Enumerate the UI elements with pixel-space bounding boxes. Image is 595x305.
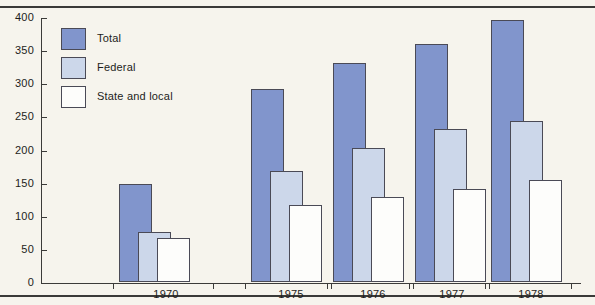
y-tick: 50 <box>41 250 47 251</box>
y-tick-label: 50 <box>21 243 34 255</box>
y-tick-mark <box>41 250 47 251</box>
top-divider-rule <box>0 6 595 8</box>
y-tick-label: 300 <box>15 77 34 89</box>
legend-label: Federal <box>97 61 136 73</box>
x-axis-label-1976: 1976 <box>343 288 403 300</box>
x-tick-mark <box>413 283 414 289</box>
legend-label: State and local <box>97 90 173 102</box>
y-tick-mark <box>41 51 47 52</box>
x-tick-mark <box>571 283 572 289</box>
y-tick-label: 100 <box>15 210 34 222</box>
legend-item: Total <box>61 28 231 57</box>
x-tick-mark <box>331 283 332 289</box>
y-tick-label: 150 <box>15 177 34 189</box>
legend-swatch <box>61 57 86 79</box>
x-axis-label-1970: 1970 <box>136 288 196 300</box>
bar-state-and-local <box>157 238 190 282</box>
legend-item: Federal <box>61 57 231 86</box>
y-tick-mark <box>41 84 47 85</box>
x-tick-mark <box>245 283 246 289</box>
x-tick-mark <box>327 283 328 289</box>
y-tick-mark <box>41 117 47 118</box>
bar-group <box>333 18 413 283</box>
chart-figure: 050100150200250300350400 197019751976197… <box>0 0 595 305</box>
y-tick: 200 <box>41 151 47 152</box>
y-tick-label: 400 <box>15 11 34 23</box>
y-tick-label: 250 <box>15 110 34 122</box>
y-tick-mark <box>41 283 47 284</box>
bar-state-and-local <box>371 197 404 282</box>
y-tick: 100 <box>41 217 47 218</box>
y-tick-mark <box>41 18 47 19</box>
legend-item: State and local <box>61 86 231 115</box>
bar-state-and-local <box>529 180 562 282</box>
legend-swatch <box>61 28 86 50</box>
bar-group <box>491 18 571 283</box>
legend-swatch <box>61 86 86 108</box>
x-axis-label-1977: 1977 <box>422 288 482 300</box>
x-tick-mark <box>489 283 490 289</box>
x-axis-label-1978: 1978 <box>501 288 561 300</box>
y-tick: 400 <box>41 18 47 19</box>
y-tick: 300 <box>41 84 47 85</box>
x-tick-mark <box>213 283 214 289</box>
x-tick-mark <box>485 283 486 289</box>
x-axis-label-1975: 1975 <box>261 288 321 300</box>
x-tick-mark <box>113 283 114 289</box>
y-tick-label: 200 <box>15 144 34 156</box>
bar-group <box>251 18 331 283</box>
bar-group <box>415 18 489 283</box>
chart-legend: TotalFederalState and local <box>61 28 231 115</box>
y-tick-mark <box>41 217 47 218</box>
x-tick-mark <box>409 283 410 289</box>
legend-label: Total <box>97 32 121 44</box>
x-axis-line <box>41 283 581 284</box>
bar-state-and-local <box>453 189 486 282</box>
y-tick: 150 <box>41 184 47 185</box>
y-tick: 250 <box>41 117 47 118</box>
y-tick: 350 <box>41 51 47 52</box>
y-tick-mark <box>41 184 47 185</box>
bar-state-and-local <box>289 205 322 283</box>
y-tick-label: 0 <box>28 276 34 288</box>
y-tick: 0 <box>41 283 47 284</box>
y-tick-mark <box>41 151 47 152</box>
y-tick-label: 350 <box>15 44 34 56</box>
